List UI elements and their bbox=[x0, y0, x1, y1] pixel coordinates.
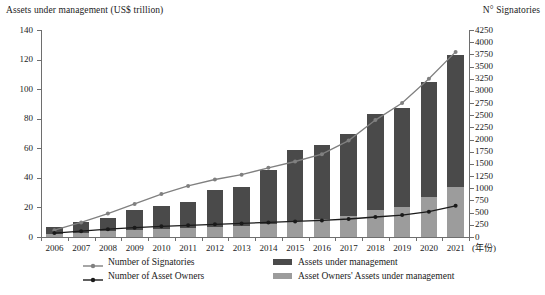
right-tick-label: 3750 bbox=[475, 50, 493, 59]
legend-line-marker-icon bbox=[83, 260, 103, 265]
bar-asset-owners-aum bbox=[367, 210, 384, 237]
right-tick-label: 3000 bbox=[475, 86, 493, 95]
line-marker bbox=[400, 101, 404, 105]
left-tick bbox=[37, 119, 41, 120]
right-tick bbox=[470, 54, 474, 55]
left-axis-title: Assets under management (US$ trillion) bbox=[6, 5, 163, 15]
left-tick bbox=[37, 148, 41, 149]
bar-asset-owners-aum bbox=[180, 228, 197, 237]
right-tick-label: 2250 bbox=[475, 123, 493, 132]
legend-label: Asset Owners' Assets under management bbox=[298, 270, 454, 282]
bar-asset-owners-aum bbox=[100, 231, 117, 237]
bar-asset-owners-aum bbox=[207, 227, 224, 237]
line-marker bbox=[159, 192, 163, 196]
x-tick bbox=[362, 237, 363, 241]
left-tick-label: 40 bbox=[3, 173, 33, 182]
left-tick-label: 0 bbox=[3, 233, 33, 242]
right-tick-label: 250 bbox=[475, 220, 489, 229]
right-tick bbox=[470, 67, 474, 68]
right-tick-label: 1500 bbox=[475, 159, 493, 168]
legend-item[interactable]: Number of Asset Owners bbox=[108, 270, 204, 282]
right-tick-label: 1750 bbox=[475, 147, 493, 156]
bar-asset-owners-aum bbox=[46, 234, 63, 237]
x-tick bbox=[282, 237, 283, 241]
right-tick-label: 1000 bbox=[475, 184, 493, 193]
right-tick bbox=[470, 91, 474, 92]
chart-container: Assets under management (US$ trillion) N… bbox=[0, 0, 545, 295]
right-tick-label: 0 bbox=[475, 233, 480, 242]
bar-asset-owners-aum bbox=[126, 230, 143, 237]
right-tick-label: 4000 bbox=[475, 38, 493, 47]
right-tick bbox=[470, 127, 474, 128]
right-tick-label: 2750 bbox=[475, 99, 493, 108]
left-tick bbox=[37, 30, 41, 31]
x-tick bbox=[442, 237, 443, 241]
right-tick-label: 4250 bbox=[475, 26, 493, 35]
legend-item[interactable]: Asset Owners' Assets under management bbox=[298, 270, 454, 282]
x-tick bbox=[148, 237, 149, 241]
right-axis-title: N° Signatories bbox=[483, 5, 540, 15]
legend-item[interactable]: Assets under management bbox=[298, 256, 398, 268]
legend-item[interactable]: Number of Signatories bbox=[108, 256, 195, 268]
left-tick bbox=[37, 178, 41, 179]
right-tick bbox=[470, 30, 474, 31]
line-marker bbox=[213, 178, 217, 182]
line-marker bbox=[266, 166, 270, 170]
line-marker bbox=[133, 202, 137, 206]
left-tick-label: 100 bbox=[3, 85, 33, 94]
right-tick bbox=[470, 200, 474, 201]
right-tick bbox=[470, 188, 474, 189]
right-tick bbox=[470, 213, 474, 214]
right-tick bbox=[470, 225, 474, 226]
bar-asset-owners-aum bbox=[447, 187, 464, 237]
legend-label: Number of Signatories bbox=[108, 256, 195, 268]
x-axis-label: 2021 bbox=[439, 243, 473, 253]
left-tick bbox=[37, 60, 41, 61]
right-tick-label: 1250 bbox=[475, 172, 493, 181]
line-marker bbox=[240, 173, 244, 177]
line-marker bbox=[186, 184, 190, 188]
left-axis-line bbox=[41, 30, 42, 238]
right-tick bbox=[470, 237, 474, 238]
right-tick bbox=[470, 42, 474, 43]
right-tick bbox=[470, 115, 474, 116]
x-tick bbox=[228, 237, 229, 241]
right-tick-label: 3500 bbox=[475, 62, 493, 71]
legend-label: Number of Asset Owners bbox=[108, 270, 204, 282]
right-tick-label: 3250 bbox=[475, 74, 493, 83]
right-tick bbox=[470, 103, 474, 104]
x-tick bbox=[389, 237, 390, 241]
x-tick bbox=[68, 237, 69, 241]
line-marker bbox=[454, 50, 458, 54]
x-tick bbox=[335, 237, 336, 241]
x-axis-title: (年份) bbox=[472, 243, 532, 253]
x-tick bbox=[416, 237, 417, 241]
x-tick bbox=[175, 237, 176, 241]
legend-line-marker-icon bbox=[83, 274, 103, 279]
bar-asset-owners-aum bbox=[260, 224, 277, 237]
bar-asset-owners-aum bbox=[153, 229, 170, 237]
legend-label: Assets under management bbox=[298, 256, 398, 268]
x-tick bbox=[469, 237, 470, 241]
right-tick bbox=[470, 164, 474, 165]
legend-swatch-icon bbox=[273, 259, 292, 265]
bar-asset-owners-aum bbox=[340, 216, 357, 237]
left-tick-label: 20 bbox=[3, 203, 33, 212]
bar-asset-owners-aum bbox=[314, 219, 331, 237]
line-marker bbox=[106, 212, 110, 216]
bar-asset-owners-aum bbox=[73, 233, 90, 237]
bar-asset-owners-aum bbox=[233, 226, 250, 237]
right-tick bbox=[470, 140, 474, 141]
right-tick-label: 2000 bbox=[475, 135, 493, 144]
legend-swatch-icon bbox=[273, 273, 292, 279]
x-tick bbox=[202, 237, 203, 241]
x-tick bbox=[41, 237, 42, 241]
left-tick-label: 80 bbox=[3, 114, 33, 123]
bar-asset-owners-aum bbox=[421, 197, 438, 237]
left-tick-label: 60 bbox=[3, 144, 33, 153]
left-tick bbox=[37, 89, 41, 90]
right-tick bbox=[470, 79, 474, 80]
right-tick-label: 750 bbox=[475, 196, 489, 205]
right-axis-line bbox=[469, 30, 470, 238]
x-tick bbox=[95, 237, 96, 241]
